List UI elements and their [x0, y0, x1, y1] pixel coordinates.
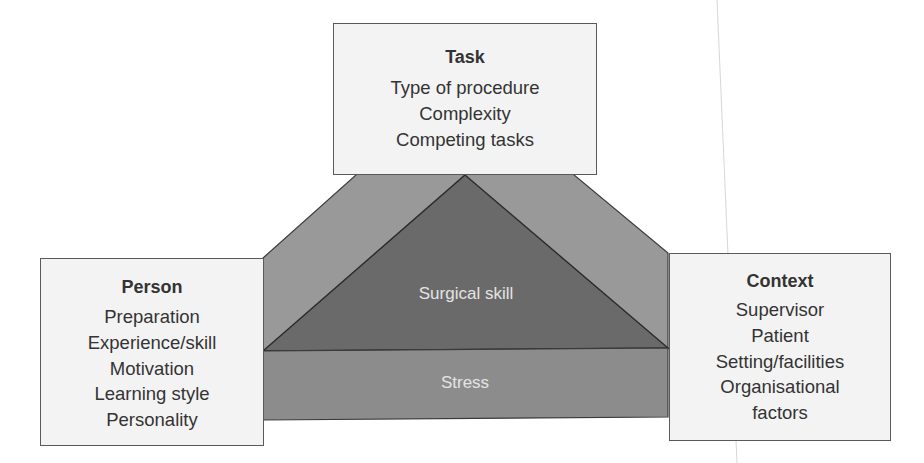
task-title: Task — [334, 46, 596, 68]
person-title: Person — [41, 276, 263, 298]
person-item: Motivation — [41, 356, 263, 382]
context-box: Context Supervisor Patient Setting/facil… — [669, 253, 891, 441]
task-box: Task Type of procedure Complexity Compet… — [333, 23, 597, 175]
context-title: Context — [670, 270, 890, 292]
task-item: Type of procedure — [334, 75, 596, 101]
context-item: Setting/facilities — [670, 349, 890, 375]
context-item: factors — [670, 400, 890, 426]
person-box: Person Preparation Experience/skill Moti… — [40, 258, 264, 446]
surgical-skill-label: Surgical skill — [366, 284, 566, 304]
context-item: Patient — [670, 323, 890, 349]
person-item: Personality — [41, 407, 263, 433]
task-item: Complexity — [334, 101, 596, 127]
context-item: Supervisor — [670, 297, 890, 323]
context-item: Organisational — [670, 374, 890, 400]
person-item: Preparation — [41, 304, 263, 330]
stress-label: Stress — [365, 373, 565, 393]
task-item: Competing tasks — [334, 127, 596, 153]
person-item: Learning style — [41, 381, 263, 407]
surgical-skill-diagram: Surgical skill Stress Task Type of proce… — [0, 0, 924, 463]
person-item: Experience/skill — [41, 330, 263, 356]
